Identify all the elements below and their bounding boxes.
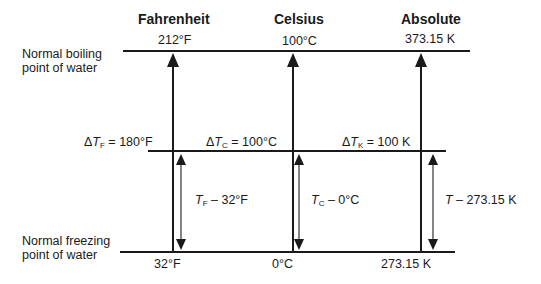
relation-fahrenheit: TF – 32°F [195, 193, 248, 208]
fahrenheit-range-arrow [167, 53, 179, 252]
boiling-absolute: 373.15 K [405, 32, 455, 46]
header-celsius: Celsius [274, 11, 324, 27]
delta-absolute: ΔTK = 100 K [342, 135, 410, 150]
relation-absolute: T – 273.15 K [445, 193, 517, 208]
boiling-label: Normal boiling point of water [22, 47, 102, 75]
freezing-label-line2: point of water [22, 248, 110, 262]
boiling-label-line1: Normal boiling [22, 47, 102, 61]
freezing-absolute: 273.15 K [381, 257, 431, 271]
freezing-label: Normal freezing point of water [22, 234, 110, 262]
delta-fahrenheit: ΔTF = 180°F [84, 135, 153, 150]
celsius-offset-arrow [294, 154, 304, 250]
header-absolute: Absolute [401, 11, 461, 27]
relation-celsius: TC – 0°C [311, 193, 359, 208]
absolute-range-arrow [415, 53, 427, 252]
freezing-celsius: 0°C [272, 257, 293, 271]
boiling-fahrenheit: 212°F [158, 33, 192, 47]
freezing-label-line1: Normal freezing [22, 234, 110, 248]
celsius-range-arrow [287, 53, 299, 252]
freezing-fahrenheit: 32°F [154, 257, 181, 271]
header-fahrenheit: Fahrenheit [138, 11, 210, 27]
delta-celsius: ΔTC = 100°C [206, 135, 277, 150]
absolute-offset-arrow [428, 154, 438, 250]
fahrenheit-offset-arrow [176, 154, 186, 250]
boiling-label-line2: point of water [22, 61, 102, 75]
boiling-celsius: 100°C [282, 34, 317, 48]
